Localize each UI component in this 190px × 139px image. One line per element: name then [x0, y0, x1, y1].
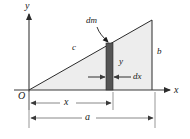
y-axis-label: y	[25, 1, 29, 11]
dimension-x-label: x	[64, 97, 68, 107]
differential-strip	[106, 43, 113, 90]
hypotenuse-label: c	[72, 43, 76, 52]
right-side-label: b	[157, 47, 162, 56]
dimension-a-label: a	[85, 112, 90, 122]
dm-leader-line	[97, 27, 108, 42]
strip-width-label: dx	[133, 72, 142, 81]
x-axis-label: x	[174, 85, 178, 95]
origin-label: O	[18, 91, 25, 101]
strip-height-label: y	[119, 57, 123, 66]
dm-label: dm	[86, 16, 97, 25]
figure-container: y x O dm c b y dx x a	[0, 0, 190, 139]
